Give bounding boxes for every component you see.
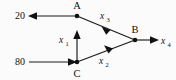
edge-label-x3-base: x <box>99 11 105 21</box>
node-dot-b <box>133 38 138 43</box>
edge-label-x1-base: x <box>58 35 64 45</box>
edge-label-x1: x 1 <box>58 35 69 47</box>
edge-label-x1-subscript: 1 <box>66 40 69 47</box>
arrowhead-b-out <box>150 36 159 43</box>
edge-label-x2: x 2 <box>98 56 109 68</box>
node-label-b: B <box>131 24 138 35</box>
edge-label-x4: x 4 <box>160 36 172 48</box>
node-label-c: C <box>73 68 80 79</box>
edge-label-x3-subscript: 3 <box>107 16 110 23</box>
outflow-value-20: 20 <box>15 10 25 21</box>
node-dot-c <box>75 60 80 65</box>
edge-c-to-a <box>73 30 80 62</box>
edge-label-x3: x 3 <box>99 11 110 23</box>
arrowhead-a-out <box>28 12 37 19</box>
edge-c-to-b <box>77 40 135 62</box>
node-dot-a <box>75 14 80 19</box>
edge-inflow-to-c <box>29 58 77 65</box>
arrowhead-c-b <box>104 45 113 53</box>
edge-a-to-outflow <box>28 12 77 19</box>
edge-label-x4-base: x <box>160 36 166 46</box>
edge-label-x4-subscript: 4 <box>168 41 172 48</box>
node-label-a: A <box>73 0 81 11</box>
edge-label-x2-base: x <box>98 56 104 66</box>
flow-network-canvas: A B C 20 80 x 1 x 2 x 3 x 4 <box>0 0 176 80</box>
flow-network-diagram: A B C 20 80 x 1 x 2 x 3 x 4 <box>0 0 176 80</box>
edge-b-to-terminal <box>135 36 159 43</box>
inflow-value-80: 80 <box>15 56 25 67</box>
edge-label-x2-subscript: 2 <box>106 61 109 68</box>
arrowhead-c-a <box>73 30 80 39</box>
edge-c-b-line <box>77 40 135 62</box>
